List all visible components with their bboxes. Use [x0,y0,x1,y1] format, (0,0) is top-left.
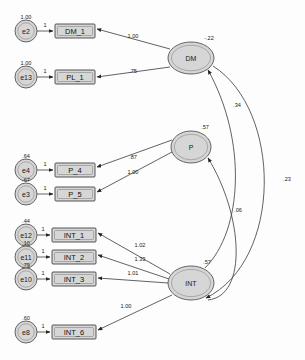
indicator-INT_2[interactable]: INT_2 [52,250,96,264]
estimate-loading-int-int1: 1.02 [135,242,146,248]
error-label: e2 [22,28,30,35]
indicator-label: INT_6 [64,328,84,337]
error-label: e12 [20,232,32,239]
latent-node-P[interactable]: P [171,131,211,163]
error-label: e4 [22,167,30,174]
indicator-group: DM_1 PL_1 P_4 P_5 INT_1 INT_2 [52,24,96,339]
indicator-label: INT_3 [64,275,84,284]
estimate-structural-dm-p: .23 [283,176,291,182]
latent-label: INT [185,280,197,287]
error-node-e8[interactable]: e8 [15,321,37,343]
indicator-P_5[interactable]: P_5 [55,187,95,201]
estimate-e8: .60 [22,315,30,321]
indicator-label: P_5 [68,190,81,199]
indicator-label: INT_2 [64,253,84,262]
estimate-p: .57 [201,124,209,130]
estimate-loading-int-int2: 1.33 [135,256,146,262]
loading-path-int-int6 [98,295,172,330]
estimate-e13: 1.00 [21,60,32,66]
estimate-loading-p-p4: .87 [129,154,137,160]
indicator-label: DM_1 [65,27,85,36]
estimate-e2: 1.00 [21,14,32,20]
estimate-e4: .64 [22,153,30,159]
estimate-structural-int-p: .06 [234,207,242,213]
estimate-structural-int-dm: .34 [233,102,241,108]
indicator-P_4[interactable]: P_4 [55,163,95,177]
estimate-path-e3: 1 [43,185,46,191]
indicator-DM_1[interactable]: DM_1 [55,24,95,38]
indicator-INT_6[interactable]: INT_6 [52,325,96,339]
latent-node-DM[interactable]: DM [168,42,214,74]
error-node-e3[interactable]: e3 [15,183,37,205]
structural-path-int-dm [205,70,235,268]
error-path-group [37,31,53,332]
loading-path-int-int1 [98,233,170,274]
latent-label: P [189,144,194,151]
indicator-INT_3[interactable]: INT_3 [52,272,96,286]
estimate-path-e8: 1 [41,323,44,329]
estimate-path-e11: 1 [41,248,44,254]
error-label: e10 [20,276,32,283]
error-label: e3 [22,191,30,198]
indicator-label: INT_1 [64,231,84,240]
error-node-e2[interactable]: e2 [15,20,37,42]
loading-path-group [97,29,172,330]
error-label: e11 [20,254,31,261]
estimate-loading-int-int3: 1.01 [128,270,139,276]
diagram-canvas: DM_1 PL_1 P_4 P_5 INT_1 INT_2 [0,0,305,360]
latent-label: DM [186,55,197,62]
sem-path-diagram: DM_1 PL_1 P_4 P_5 INT_1 INT_2 [0,0,305,360]
estimate-e3: .67 [22,177,30,183]
error-node-e10[interactable]: e10 [15,268,37,290]
indicator-label: P_4 [68,166,81,175]
estimate-e10: .79 [22,262,30,268]
indicator-INT_1[interactable]: INT_1 [52,228,96,242]
latent-node-INT[interactable]: INT [168,266,214,300]
indicator-label: PL_1 [66,73,84,82]
estimate-dm: -.22 [204,35,214,41]
estimate-int: .57 [203,259,211,265]
estimate-loading-p-p5: 1.00 [128,169,139,175]
error-label: e8 [22,329,30,336]
estimate-e11: .10 [22,240,30,246]
estimate-path-e10: 1 [41,270,44,276]
estimate-loading-dm-dm1: 1.00 [128,33,139,39]
error-label: e13 [20,74,32,81]
estimate-loading-dm-pl1: .75 [129,68,137,74]
estimate-e12: .44 [22,218,30,224]
estimate-loading-int-int6: 1.00 [121,303,132,309]
estimate-path-e12: 1 [41,226,44,232]
loading-path-dm-dm1 [97,29,170,49]
estimate-path-e2: 1 [43,22,46,28]
indicator-PL_1[interactable]: PL_1 [55,70,95,84]
estimate-path-e13: 1 [43,68,46,74]
estimate-path-e4: 1 [43,161,46,167]
loading-path-int-int3 [98,278,168,283]
error-node-e13[interactable]: e13 [15,66,37,88]
